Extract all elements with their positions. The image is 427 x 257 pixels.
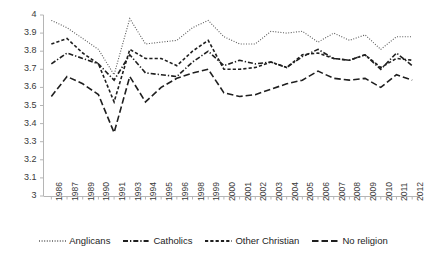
legend-item-catholics[interactable]: Catholics <box>123 236 192 246</box>
x-axis-tick-label: 1994 <box>149 182 158 201</box>
legend-swatch-dashed-long <box>312 237 339 245</box>
series-line-catholics <box>51 49 412 80</box>
x-axis-tick-label: 2011 <box>400 183 409 201</box>
x-axis-tick-label: 2008 <box>353 182 362 201</box>
y-axis-tick-label: 3.5 <box>0 101 37 110</box>
x-axis-tick-label: 2000 <box>228 182 237 201</box>
x-axis-tick-label: 2001 <box>244 182 253 201</box>
x-axis-tick-label: 2003 <box>275 182 284 201</box>
x-axis-tick-label: 2007 <box>338 182 347 201</box>
legend-item-other-christian[interactable]: Other Christian <box>205 236 299 246</box>
chart-legend: AnglicansCatholicsOther ChristianNo reli… <box>0 231 427 251</box>
y-axis-tick-label: 3.6 <box>0 82 37 91</box>
y-axis-tick-label: 3.1 <box>0 173 37 182</box>
y-axis-tick-label: 3.7 <box>0 64 37 73</box>
legend-swatch-dashed-short <box>205 237 232 245</box>
x-axis-tick-label: 2010 <box>385 182 394 201</box>
x-axis-tick-label: 1993 <box>134 182 143 201</box>
y-axis-ticks <box>40 15 44 196</box>
legend-swatch-dotted <box>39 237 66 245</box>
series-line-other-christian <box>51 39 412 102</box>
legend-label: No religion <box>342 236 387 246</box>
y-axis-tick-label: 3.4 <box>0 119 37 128</box>
y-axis-tick-label: 3 <box>0 191 37 200</box>
y-axis-tick-label: 3.8 <box>0 46 37 55</box>
axes <box>40 15 420 200</box>
x-axis-tick-label: 1998 <box>197 182 206 201</box>
x-axis-tick-label: 1996 <box>181 182 190 201</box>
x-axis-tick-label: 1989 <box>87 182 96 201</box>
legend-label: Anglicans <box>69 236 110 246</box>
x-axis-tick-label: 1999 <box>212 182 221 201</box>
legend-item-no-religion[interactable]: No religion <box>312 236 387 246</box>
y-axis-tick-label: 3.2 <box>0 155 37 164</box>
legend-swatch-dash-dot <box>123 237 150 245</box>
data-series-group <box>51 19 412 133</box>
y-axis-tick-label: 3.9 <box>0 28 37 37</box>
series-line-no-religion <box>51 69 412 132</box>
x-axis-tick-label: 2006 <box>322 182 331 201</box>
x-axis-tick-label: 2002 <box>259 182 268 201</box>
legend-label: Other Christian <box>235 236 299 246</box>
series-line-anglicans <box>51 19 412 75</box>
x-axis-tick-label: 1991 <box>118 182 127 201</box>
x-axis-tick-label: 2009 <box>369 182 378 201</box>
x-axis-tick-label: 1986 <box>55 182 64 201</box>
y-axis-tick-label: 4 <box>0 10 37 19</box>
x-axis-tick-label: 1995 <box>165 182 174 201</box>
y-axis-tick-label: 3.3 <box>0 137 37 146</box>
x-axis-tick-label: 2004 <box>291 182 300 201</box>
legend-item-anglicans[interactable]: Anglicans <box>39 236 110 246</box>
x-axis-tick-label: 2005 <box>306 182 315 201</box>
x-axis-tick-label: 1987 <box>71 182 80 201</box>
legend-label: Catholics <box>153 236 192 246</box>
x-axis-tick-label: 2012 <box>416 182 425 201</box>
x-axis-tick-label: 1990 <box>102 182 111 201</box>
plot-area <box>0 0 427 257</box>
line-chart: 43.93.83.73.63.53.43.33.23.13 1986198719… <box>0 0 427 257</box>
